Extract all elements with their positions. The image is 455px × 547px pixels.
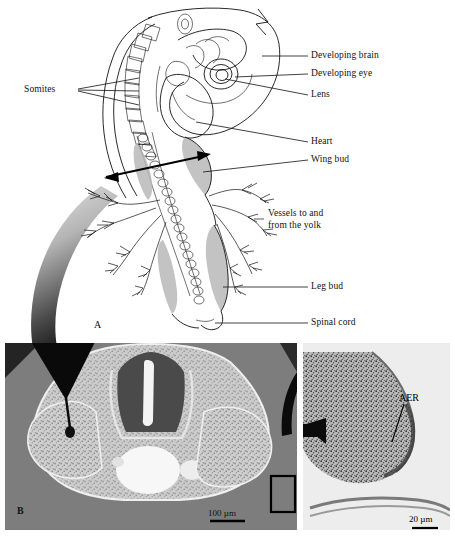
- leader-developing-eye: [235, 74, 308, 77]
- otic-vesicle: [178, 14, 193, 34]
- brain-outline: [148, 8, 280, 135]
- heart-ventricle-inner: [172, 92, 195, 120]
- aorta-small: [112, 457, 124, 467]
- head-outline-lower: [170, 82, 192, 133]
- scalebar-b-text: 100 µm: [208, 508, 236, 518]
- heart-atrium: [166, 61, 190, 86]
- scalebar-c-text: 20 µm: [409, 514, 432, 524]
- leader-heart: [196, 122, 308, 142]
- figure-canvas: [0, 0, 455, 547]
- panel-a-letter: A: [94, 319, 101, 330]
- label-leg-bud: Leg bud: [311, 281, 343, 292]
- label-vessels-to-and: Vessels to and: [268, 208, 323, 219]
- inset-link-bar: [303, 424, 317, 437]
- leader-lines: [78, 56, 308, 323]
- aer-label: AER: [399, 392, 419, 403]
- tail-outline-left: [172, 314, 199, 328]
- panel-b-letter: B: [17, 505, 24, 516]
- label-heart: Heart: [311, 136, 333, 147]
- leader-somite-3: [78, 91, 139, 105]
- panel-c-micrograph: [303, 343, 450, 530]
- heart-vessel-2: [205, 37, 229, 42]
- leader-lens: [225, 79, 308, 95]
- figure-root: Somites Developing brain Developing eye …: [0, 0, 455, 547]
- leader-wing-bud: [203, 160, 308, 172]
- heart-outline: [160, 74, 213, 138]
- wing-bud-shade: [182, 137, 211, 195]
- panel-b-micrograph: [5, 340, 303, 540]
- label-wing-bud: Wing bud: [311, 154, 349, 165]
- otic-vesicle-inner: [182, 19, 189, 29]
- neural-tube-outer: [112, 17, 152, 60]
- label-somites: Somites: [24, 84, 55, 95]
- label-developing-brain: Developing brain: [311, 50, 379, 61]
- leader-somite-2: [78, 90, 139, 91]
- label-from-the-yolk: from the yolk: [268, 220, 321, 231]
- label-developing-eye: Developing eye: [311, 68, 372, 79]
- gut-lumen: [116, 446, 180, 494]
- brain-notch: [256, 9, 268, 35]
- tail-tip-inner: [196, 319, 214, 321]
- neural-tube-lumen: [143, 360, 154, 426]
- developing-eye-outer: [204, 59, 238, 89]
- label-lens: Lens: [311, 89, 330, 100]
- label-spinal-cord: Spinal cord: [311, 317, 356, 328]
- aer-spot-left: [65, 426, 75, 438]
- leg-bud-shade: [206, 225, 228, 311]
- body-ventral-outline: [205, 195, 216, 226]
- forebrain-inner: [178, 29, 246, 70]
- heart-trunk: [156, 66, 160, 112]
